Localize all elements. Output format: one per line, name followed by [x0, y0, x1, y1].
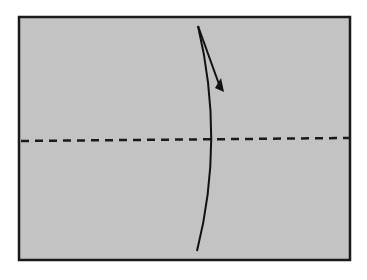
- paper-sheet: [19, 17, 350, 260]
- diagram-canvas: [0, 0, 367, 280]
- origami-diagram: [0, 0, 367, 280]
